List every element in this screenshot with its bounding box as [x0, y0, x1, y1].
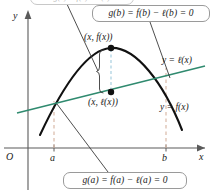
- label-tick-b: b: [162, 153, 167, 163]
- y-axis: [25, 10, 32, 190]
- label-curve-f: y = f(x): [160, 103, 189, 113]
- callout-g-of-b: g(b) = f(b) − ℓ(b) = 0: [92, 5, 210, 22]
- callout-g-of-a: g(a) = f(a) − ℓ(a) = 0: [63, 172, 187, 189]
- label-point-lower: (x, ℓ(x)): [88, 98, 118, 108]
- label-axis-y: y: [13, 11, 17, 21]
- point-x-f-of-x: [108, 45, 114, 51]
- label-curve-l: y = ℓ(x): [162, 56, 192, 66]
- label-origin: O: [6, 152, 13, 162]
- label-tick-a: a: [50, 153, 55, 163]
- mvt-diagram: g(x) = f(x) − ℓ(x) g(b) = f(b) − ℓ(b) = …: [0, 0, 215, 195]
- gap-brace: [97, 50, 104, 93]
- label-axis-x: x: [199, 152, 203, 162]
- label-point-upper: (x, f(x)): [84, 33, 112, 43]
- leader-line-gb: [150, 22, 170, 78]
- x-axis: [4, 145, 205, 152]
- point-x-l-of-x: [108, 89, 114, 95]
- leader-line-ga: [57, 104, 108, 172]
